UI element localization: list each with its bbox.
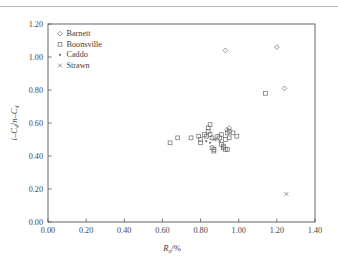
legend-marker-square-icon xyxy=(58,42,62,46)
x-tick-label: 0.00 xyxy=(41,226,55,235)
y-tick-label: 0.60 xyxy=(29,119,43,128)
data-point xyxy=(284,192,288,196)
x-axis-tick-labels: 0.000.200.400.600.801.001.201.40 xyxy=(41,226,322,235)
x-tick-label: 0.20 xyxy=(79,226,93,235)
data-point xyxy=(282,86,287,91)
series-barnett xyxy=(223,45,287,132)
legend-item-caddo[interactable]: Caddo xyxy=(59,50,88,59)
data-point xyxy=(168,141,172,145)
legend-marker-diamond-icon xyxy=(58,31,63,36)
y-axis-ticks xyxy=(48,24,52,222)
y-axis-tick-labels: 0.000.200.400.600.801.001.20 xyxy=(29,20,43,227)
figure-container: 0.000.200.400.600.801.001.201.40 0.000.2… xyxy=(0,0,338,267)
x-tick-label: 1.40 xyxy=(308,226,322,235)
series-caddo xyxy=(205,138,220,143)
data-point xyxy=(219,140,221,142)
legend-item-strawn[interactable]: Strawn xyxy=(58,61,90,70)
data-point-layer xyxy=(168,45,288,196)
x-tick-label: 0.80 xyxy=(193,226,207,235)
x-tick-label: 1.20 xyxy=(270,226,284,235)
y-tick-label: 0.40 xyxy=(29,152,43,161)
legend-item-boonsville[interactable]: Boonsville xyxy=(58,40,102,49)
x-tick-label: 0.40 xyxy=(117,226,131,235)
data-point xyxy=(227,136,231,140)
data-point xyxy=(189,136,193,140)
y-tick-label: 1.20 xyxy=(29,20,43,29)
data-point xyxy=(223,48,228,53)
legend-marker-cross-icon xyxy=(58,64,62,68)
y-tick-label: 0.20 xyxy=(29,185,43,194)
legend-marker-dot-icon xyxy=(59,54,61,56)
svg-text:Ro/%: Ro/% xyxy=(162,243,181,254)
y-axis-title: i–C4/n–C4 xyxy=(9,105,20,140)
legend-label: Strawn xyxy=(67,61,90,70)
data-point xyxy=(176,136,180,140)
data-point xyxy=(209,142,211,144)
data-point xyxy=(235,134,239,138)
y-tick-label: 0.80 xyxy=(29,86,43,95)
chart-legend: BarnettBoonsvilleCaddoStrawn xyxy=(58,29,103,70)
y-tick-label: 1.00 xyxy=(29,53,43,62)
data-point xyxy=(264,91,268,95)
x-axis-ticks xyxy=(48,219,315,223)
data-point xyxy=(274,45,279,50)
data-point xyxy=(223,138,227,142)
y-tick-label: 0.00 xyxy=(29,218,43,227)
scatter-chart: 0.000.200.400.600.801.001.201.40 0.000.2… xyxy=(0,0,338,267)
legend-label: Caddo xyxy=(67,50,88,59)
legend-item-barnett[interactable]: Barnett xyxy=(58,29,92,38)
svg-text:i–C4/n–C4: i–C4/n–C4 xyxy=(9,105,20,140)
x-tick-label: 0.60 xyxy=(155,226,169,235)
plot-frame xyxy=(48,24,315,222)
legend-label: Boonsville xyxy=(67,40,103,49)
data-point xyxy=(231,131,235,135)
series-boonsville xyxy=(168,91,267,153)
legend-label: Barnett xyxy=(67,29,92,38)
x-tick-label: 1.00 xyxy=(232,226,246,235)
data-point xyxy=(205,140,207,142)
x-axis-title: Ro/% xyxy=(162,243,181,254)
